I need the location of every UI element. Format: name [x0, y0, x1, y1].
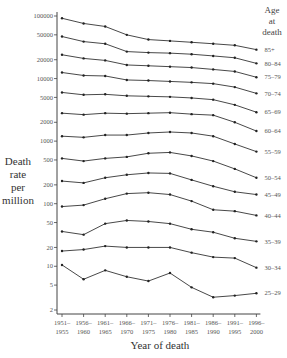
data-point	[82, 74, 84, 76]
data-point	[190, 41, 192, 43]
data-point	[147, 51, 149, 53]
svg-text:death: death	[262, 27, 282, 37]
data-point	[212, 43, 214, 45]
data-point	[82, 278, 84, 280]
x-axis: 1951–19551956–19601961–19651966–19701971…	[54, 314, 265, 335]
data-point	[61, 250, 63, 252]
data-point	[212, 185, 214, 187]
data-point	[255, 48, 257, 50]
data-point	[104, 112, 106, 114]
data-point	[234, 121, 236, 123]
x-tick-label: 1990	[207, 328, 220, 335]
data-point	[190, 179, 192, 181]
data-point	[234, 294, 236, 296]
series-label: 65–69	[264, 108, 280, 115]
series-label: 55–59	[264, 148, 280, 155]
data-point	[126, 134, 128, 136]
data-point	[234, 210, 236, 212]
series-label: 80–84	[264, 60, 281, 67]
data-point	[82, 248, 84, 250]
data-point	[147, 112, 149, 114]
data-point	[126, 192, 128, 194]
data-point	[234, 86, 236, 88]
data-point	[234, 44, 236, 46]
data-point	[61, 264, 63, 266]
data-point	[169, 172, 171, 174]
data-point	[169, 96, 171, 98]
data-point	[255, 214, 257, 216]
series-label: 35–39	[264, 238, 280, 245]
data-point	[82, 22, 84, 24]
data-point	[169, 193, 171, 195]
series-line	[62, 246, 256, 268]
x-tick-label: 1951–	[54, 319, 71, 326]
data-point	[147, 65, 149, 67]
data-point	[212, 231, 214, 233]
data-point	[190, 113, 192, 115]
data-point	[104, 222, 106, 224]
y-axis: 1000005000020000100005000200010005002001…	[34, 12, 58, 314]
data-point	[61, 17, 63, 19]
data-point	[126, 156, 128, 158]
data-point	[190, 251, 192, 253]
series-line	[62, 152, 256, 177]
series-label: 75–79	[264, 73, 280, 80]
y-tick-label: 100000	[34, 12, 54, 19]
data-point	[61, 205, 63, 207]
data-point	[255, 130, 257, 132]
data-point	[212, 135, 214, 137]
data-point	[82, 94, 84, 96]
data-point	[82, 136, 84, 138]
data-point	[147, 95, 149, 97]
data-point	[61, 157, 63, 159]
data-point	[61, 135, 63, 137]
data-point	[190, 53, 192, 55]
y-tick-label: 100	[43, 200, 53, 207]
data-point	[234, 57, 236, 59]
data-point	[82, 204, 84, 206]
series-line	[62, 193, 256, 216]
data-point	[82, 160, 84, 162]
data-point	[104, 177, 106, 179]
y-axis-title: Deathratepermillion	[2, 155, 34, 206]
data-point	[169, 222, 171, 224]
svg-text:million: million	[2, 194, 34, 206]
data-point	[104, 269, 106, 271]
series-line	[62, 92, 256, 112]
data-point	[104, 59, 106, 61]
data-point	[126, 246, 128, 248]
x-tick-label: 1985	[185, 328, 198, 335]
y-tick-label: 2000	[40, 118, 53, 125]
data-point	[169, 40, 171, 42]
x-tick-label: 1960	[77, 328, 90, 335]
data-point	[190, 155, 192, 157]
data-point	[82, 40, 84, 42]
data-point	[82, 233, 84, 235]
series-line	[62, 73, 256, 94]
data-point	[190, 286, 192, 288]
series-label: 50–54	[264, 174, 281, 181]
data-point	[104, 245, 106, 247]
data-point	[61, 35, 63, 37]
x-tick-label: 1981–	[183, 319, 200, 326]
x-tick-label: 1995	[228, 328, 241, 335]
data-point	[255, 177, 257, 179]
data-point	[212, 68, 214, 70]
data-point	[169, 65, 171, 67]
data-point	[255, 76, 257, 78]
series-line	[62, 132, 256, 152]
data-point	[169, 131, 171, 133]
series-line	[62, 220, 256, 241]
svg-text:Age: Age	[265, 5, 280, 15]
x-tick-label: 1956–	[75, 319, 92, 326]
data-point	[234, 257, 236, 259]
series-label: 30–34	[264, 264, 281, 271]
data-point	[147, 246, 149, 248]
data-point	[126, 174, 128, 176]
data-point	[147, 220, 149, 222]
x-tick-label: 1961–	[97, 319, 114, 326]
y-tick-label: 2	[50, 306, 53, 313]
data-point	[255, 111, 257, 113]
data-point	[104, 25, 106, 27]
data-point	[61, 91, 63, 93]
